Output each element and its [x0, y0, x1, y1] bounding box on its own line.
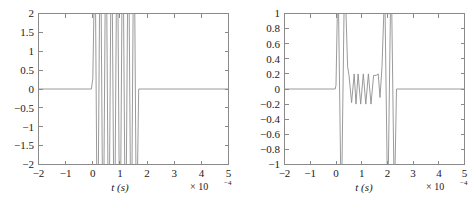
right-x-tick-labels: −2 −1 0 1 2 3 4 5: [279, 167, 468, 179]
left-x-multiplier-exponent: −4: [224, 179, 232, 187]
left-ytick-label: −0.5: [14, 102, 34, 114]
left-plot-svg: 2 1.5 1 0.5 0 −0.5 −1 −1.5 −2 −2 −1 0 1 …: [0, 0, 236, 197]
left-xaxis-title: t (s): [111, 181, 129, 194]
right-ytick-label: 1: [275, 7, 281, 19]
left-ytick-label: 1: [29, 45, 35, 57]
right-signal-path: [285, 14, 465, 165]
right-xtick-label: 5: [462, 167, 468, 179]
chart-panel-left: 2 1.5 1 0.5 0 −0.5 −1 −1.5 −2 −2 −1 0 1 …: [0, 0, 236, 197]
right-xtick-label: 1: [359, 167, 365, 179]
left-ytick-label: 0: [29, 83, 35, 95]
right-xtick-label: 4: [436, 167, 442, 179]
right-ytick-label: 0.8: [266, 22, 280, 34]
left-ytick-label: 1.5: [20, 26, 34, 38]
left-signal-path: [39, 14, 229, 165]
left-x-multiplier-base: × 10: [190, 181, 208, 192]
left-xtick-label: 0: [90, 167, 96, 179]
left-xtick-label: 4: [199, 167, 205, 179]
right-ytick-label: −0.8: [260, 143, 280, 155]
right-x-multiplier: × 10 −4: [426, 179, 468, 192]
chart-panel-right: 1 0.8 0.6 0.4 0.2 0 −0.2 −0.4 −0.6 −0.8 …: [236, 0, 472, 197]
left-xtick-label: 5: [226, 167, 232, 179]
right-ytick-label: 0: [275, 83, 281, 95]
left-ytick-label: 2: [29, 7, 35, 19]
left-ytick-label: −1: [22, 121, 34, 133]
right-xaxis-title: t (s): [355, 181, 373, 194]
left-x-multiplier: × 10 −4: [190, 179, 232, 192]
right-ytick-label: 0.2: [266, 68, 280, 80]
right-xtick-label: −1: [304, 167, 316, 179]
left-y-tick-labels: 2 1.5 1 0.5 0 −0.5 −1 −1.5 −2: [14, 7, 34, 170]
right-xtick-label: 0: [333, 167, 339, 179]
left-xtick-label: 2: [144, 167, 150, 179]
left-ytick-label: −1.5: [14, 139, 34, 151]
right-ytick-label: 0.6: [266, 38, 280, 50]
left-x-ticks: [39, 161, 229, 165]
left-xtick-label: −1: [60, 167, 72, 179]
right-ytick-label: −0.2: [260, 98, 280, 110]
left-xtick-label: 3: [171, 167, 177, 179]
right-x-multiplier-base: × 10: [426, 181, 444, 192]
right-x-multiplier-exponent: −4: [460, 179, 468, 187]
right-ytick-label: −0.4: [260, 113, 280, 125]
left-xtick-label: 1: [117, 167, 123, 179]
right-xtick-label: 3: [410, 167, 416, 179]
right-x-ticks: [285, 161, 465, 165]
right-y-tick-labels: 1 0.8 0.6 0.4 0.2 0 −0.2 −0.4 −0.6 −0.8 …: [260, 7, 280, 170]
right-plot-svg: 1 0.8 0.6 0.4 0.2 0 −0.2 −0.4 −0.6 −0.8 …: [236, 0, 472, 197]
left-x-tick-labels: −2 −1 0 1 2 3 4 5: [33, 167, 232, 179]
right-xtick-label: −2: [279, 167, 291, 179]
right-x-ticks-top: [310, 14, 439, 18]
left-xtick-label: −2: [33, 167, 45, 179]
right-ytick-label: 0.4: [266, 53, 280, 65]
right-ytick-label: −0.6: [260, 128, 280, 140]
figure-root: 2 1.5 1 0.5 0 −0.5 −1 −1.5 −2 −2 −1 0 1 …: [0, 0, 472, 197]
right-xtick-label: 2: [385, 167, 391, 179]
left-ytick-label: 0.5: [20, 64, 34, 76]
